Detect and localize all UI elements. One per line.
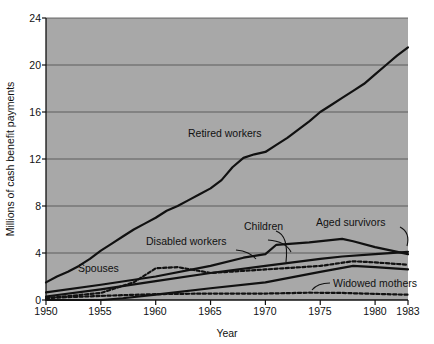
y-tick-label-8: 8 xyxy=(35,200,41,212)
x-tick-label-1980: 1980 xyxy=(363,305,387,317)
y-tick-label-20: 20 xyxy=(29,59,41,71)
series-label-retired-workers: Retired workers xyxy=(188,127,262,139)
x-axis-title: Year xyxy=(216,327,238,339)
line-chart: 24 20 16 12 8 4 0 1950 1955 1960 1965 19… xyxy=(0,0,434,344)
x-tick-label-1950: 1950 xyxy=(34,305,58,317)
x-tick-label-1965: 1965 xyxy=(198,305,222,317)
series-label-children: Children xyxy=(244,220,283,232)
y-axis-title: Millions of cash benefit payments xyxy=(4,82,16,237)
series-label-aged-survivors: Aged survivors xyxy=(316,216,385,228)
y-tick-label-12: 12 xyxy=(29,153,41,165)
series-label-widowed-mothers: Widowed mothers xyxy=(333,277,417,289)
y-tick-label-24: 24 xyxy=(29,12,41,24)
y-tick-label-16: 16 xyxy=(29,106,41,118)
x-tick-label-1970: 1970 xyxy=(253,305,277,317)
series-label-disabled-workers: Disabled workers xyxy=(146,235,227,247)
x-tick-label-1955: 1955 xyxy=(88,305,112,317)
chart-container: 24 20 16 12 8 4 0 1950 1955 1960 1965 19… xyxy=(0,0,434,344)
series-label-spouses: Spouses xyxy=(78,262,119,274)
x-tick-label-1983: 1983 xyxy=(396,305,420,317)
x-tick-label-1975: 1975 xyxy=(308,305,332,317)
y-tick-label-4: 4 xyxy=(35,247,41,259)
x-tick-label-1960: 1960 xyxy=(143,305,167,317)
